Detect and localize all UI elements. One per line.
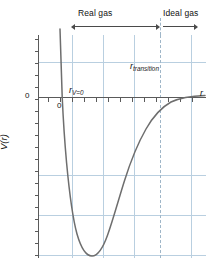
- header-divider-dash: [160, 18, 161, 35]
- ideal-gas-label: Ideal gas: [163, 8, 198, 18]
- arrow-shaft: [75, 26, 157, 27]
- r-transition-subscript: transition: [133, 65, 159, 72]
- ideal-gas-arrow: [163, 23, 203, 30]
- x-axis-zero-label: 0: [57, 101, 61, 110]
- r-transition-label: rtransition: [130, 55, 159, 73]
- r-v-zero-label: rV=0: [69, 79, 84, 97]
- y-axis-zero-label: 0: [25, 91, 29, 100]
- real-gas-label: Real gas: [78, 8, 112, 18]
- x-axis-label: r: [200, 88, 203, 98]
- y-axis-label: V(r): [0, 134, 9, 150]
- r-v-zero-subscript: V=0: [72, 89, 84, 96]
- real-gas-arrow: [71, 23, 161, 30]
- arrow-shaft: [163, 26, 195, 27]
- arrow-head-right: [194, 24, 198, 30]
- figure-root: Real gas Ideal gas V(r): [0, 0, 210, 265]
- potential-curve-svg: [38, 35, 206, 258]
- plot-area: 0 rV=0 rtransition r: [38, 35, 206, 258]
